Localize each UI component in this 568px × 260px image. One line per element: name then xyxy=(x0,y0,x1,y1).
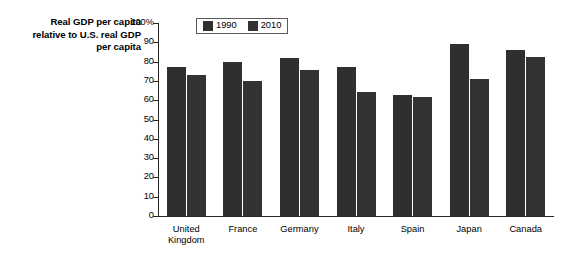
legend-swatch-icon xyxy=(248,21,258,31)
bar xyxy=(526,57,545,216)
x-axis-category-label: Canada xyxy=(481,224,568,235)
plot-area xyxy=(158,23,554,216)
bar xyxy=(243,81,262,216)
y-tick-label: 100% xyxy=(0,18,154,27)
legend-swatch-icon xyxy=(203,21,213,31)
chart-legend: 19902010 xyxy=(196,18,288,34)
bar xyxy=(450,44,469,216)
y-tick-label: 80 xyxy=(0,57,154,66)
y-tick-mark xyxy=(153,216,158,217)
y-tick-label: 10 xyxy=(0,192,154,201)
bar xyxy=(280,58,299,216)
x-axis-line xyxy=(158,216,554,217)
bar xyxy=(223,62,242,216)
y-tick-label: 20 xyxy=(0,172,154,181)
bar xyxy=(470,79,489,216)
chart-figure: Real GDP per capita relative to U.S. rea… xyxy=(0,0,568,260)
bar xyxy=(167,67,186,216)
bar xyxy=(413,97,432,216)
bar xyxy=(393,95,412,216)
x-axis-category-label-line: Kingdom xyxy=(141,235,231,246)
legend-item: 2010 xyxy=(248,21,282,31)
y-tick-label: 50 xyxy=(0,115,154,124)
y-tick-label: 90 xyxy=(0,37,154,46)
bar xyxy=(506,50,525,216)
bar xyxy=(187,75,206,216)
x-axis-category-label-line: Canada xyxy=(481,224,568,235)
bar xyxy=(337,67,356,216)
y-tick-label: 0 xyxy=(0,211,154,220)
y-tick-label: 30 xyxy=(0,153,154,162)
bar xyxy=(357,92,376,216)
legend-item: 1990 xyxy=(203,21,237,31)
bar xyxy=(300,70,319,216)
legend-label: 2010 xyxy=(261,21,282,30)
y-tick-label: 70 xyxy=(0,76,154,85)
y-tick-label: 40 xyxy=(0,134,154,143)
y-tick-label: 60 xyxy=(0,95,154,104)
legend-label: 1990 xyxy=(216,21,237,30)
